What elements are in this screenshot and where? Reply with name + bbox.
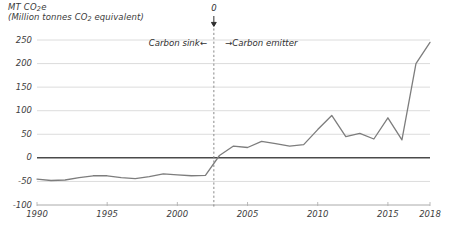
y-tick-label: 0 <box>0 152 32 162</box>
crossover-marker-label: 0 <box>211 3 216 13</box>
y-tick-label: 250 <box>0 35 32 45</box>
line-chart-plot <box>0 0 450 237</box>
x-tick-label: 1995 <box>87 209 127 219</box>
data-series-line <box>37 42 430 180</box>
y-tick-label: 150 <box>0 82 32 92</box>
y-tick-label: 200 <box>0 58 32 68</box>
carbon-sink-annotation: Carbon sink← <box>149 38 207 48</box>
y-tick-label: 100 <box>0 105 32 115</box>
x-tick-label: 2018 <box>410 209 450 219</box>
down-arrow-icon <box>211 16 216 26</box>
crossover-dashed-line <box>211 16 216 207</box>
x-tick-label: 1990 <box>17 209 57 219</box>
x-tick-label: 2000 <box>157 209 197 219</box>
y-tick-label: -50 <box>0 176 32 186</box>
carbon-sink-arrow-icon: ← <box>200 38 207 48</box>
carbon-emitter-label: Carbon emitter <box>232 38 297 48</box>
x-tick-label: 2005 <box>228 209 268 219</box>
carbon-sink-label: Carbon sink <box>149 38 200 48</box>
y-tick-label: -100 <box>0 200 32 210</box>
chart-container: MT CO2e (Million tonnes CO2 equivalent) … <box>0 0 450 237</box>
carbon-emitter-annotation: →Carbon emitter <box>225 38 298 48</box>
x-tick-label: 2015 <box>368 209 408 219</box>
x-tick-label: 2010 <box>298 209 338 219</box>
gridlines <box>37 40 430 205</box>
y-tick-label: 50 <box>0 129 32 139</box>
series-line-net-emissions <box>37 42 430 180</box>
